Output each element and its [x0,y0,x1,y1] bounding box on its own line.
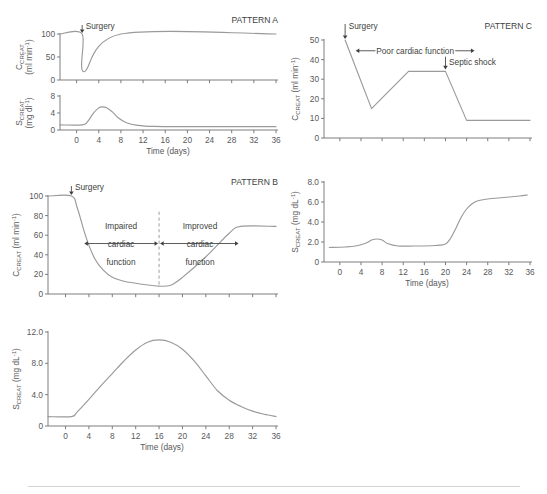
x-tick-label: 24 [201,431,211,441]
y-tick-label: 50 [310,35,320,45]
y-axis: 020406080100 [29,191,48,299]
pattern-b-screat-panel: 04.08.012.004812162024283236Time (days)S… [8,318,284,458]
data-curve [60,31,276,72]
y-tick-label: 2.0 [307,237,319,247]
svg-text:CCREAT (ml min-1): CCREAT (ml min-1) [290,57,301,121]
data-curve [329,195,527,248]
x-axis [324,138,532,141]
y-tick-label: 10 [310,113,320,123]
pattern-b-annotations: SurgeryImpairedcardiacfunctionImprovedca… [69,182,239,286]
y-axis: 04.08.012.0 [27,327,48,431]
x-tick-label: 8 [110,431,115,441]
x-axis-title: Time (days) [140,442,184,452]
improved-label-line3: function [185,257,214,267]
y-tick-label: 8 [50,91,55,101]
x-axis-title: Time (days) [146,146,190,156]
x-tick-label: 4 [87,431,92,441]
x-tick-label: 24 [205,135,215,145]
x-axis [60,80,278,83]
x-tick-label: 16 [161,135,171,145]
y-axis: 048 [50,91,60,135]
y-tick-label: 0 [50,125,55,135]
pattern-title: PATTERN B [231,177,278,187]
y-axis-title: SCREAT(mg dl-1) [14,97,34,128]
x-tick-label: 4 [359,267,364,277]
y-tick-label: 12.0 [27,327,44,337]
data-curve [48,195,276,286]
x-tick-label: 28 [483,267,493,277]
x-tick-label: 32 [504,267,514,277]
y-axis-title: SCREAT (mg dL-1) [290,191,301,253]
y-tick-label: 60 [34,230,44,240]
impaired-label-line1: Impaired [105,221,138,231]
x-tick-label: 8 [119,135,124,145]
x-tick-label: 12 [399,267,409,277]
x-axis: 04812162024283236Time (days) [60,130,281,156]
pattern-b-ccreat-panel: 020406080100CCREAT (ml min-1)PATTERN BSu… [8,180,284,298]
x-tick-label: 20 [183,135,193,145]
y-tick-label: 8.0 [307,177,319,187]
y-tick-label: 4.0 [31,390,43,400]
x-axis: 04812162024283236Time (days) [324,262,535,288]
y-axis-title: CCREAT (ml min-1) [11,213,22,277]
poor-cardiac-label: Poor cardiac function [376,46,454,56]
x-tick-label: 20 [441,267,451,277]
x-tick-label: 12 [131,431,141,441]
y-tick-label: 100 [29,191,43,201]
x-tick-label: 0 [63,431,68,441]
x-tick-label: 36 [271,135,281,145]
y-tick-label: 0 [38,421,43,431]
y-axis-title: CCREAT(ml min-1) [14,39,34,75]
y-axis: 02.04.06.08.0 [307,177,324,267]
pattern-a-screat-panel: 04804812162024283236Time (days)SCREAT(mg… [14,88,284,156]
x-tick-label: 4 [96,135,101,145]
y-tick-label: 0 [38,289,43,299]
y-axis-title: SCREAT (mg dL-1) [11,348,22,410]
x-tick-label: 0 [338,267,343,277]
x-tick-label: 28 [225,431,235,441]
y-axis: 050100 [41,29,60,85]
y-tick-label: 30 [310,74,320,84]
pattern-c-annotations: SurgeryPoor cardiac functionSeptic shock [343,21,497,69]
x-tick-label: 32 [248,431,258,441]
pattern-b-ccreat-chart: 020406080100CCREAT (ml min-1)PATTERN BSu… [8,180,284,298]
x-tick-label: 24 [462,267,472,277]
y-tick-label: 4 [50,108,55,118]
pattern-b-screat-chart: 04.08.012.004812162024283236Time (days)S… [8,318,284,458]
arrow-head [443,66,448,70]
impaired-label-line3: function [107,257,136,267]
x-tick-label: 36 [525,267,535,277]
pattern-c-screat-panel: 02.04.06.08.004812162024283236Time (days… [288,168,540,296]
data-curve [60,107,276,127]
pattern-c-ccreat-panel: 01020304050CCREAT (ml min-1)PATTERN CSur… [288,18,540,144]
y-tick-label: 20 [34,269,44,279]
pattern-c-screat-chart: 02.04.06.08.004812162024283236Time (days… [288,168,540,296]
surgery-label: Surgery [75,182,105,192]
y-tick-label: 0 [314,257,319,267]
x-tick-label: 36 [271,431,281,441]
arrow-head [343,35,348,39]
y-tick-label: 50 [46,52,56,62]
y-tick-label: 4.0 [307,217,319,227]
y-tick-label: 6.0 [307,197,319,207]
x-axis: 04812162024283236Time (days) [48,426,281,452]
y-tick-label: 0 [314,133,319,143]
improved-label-line2: cardiac [187,239,214,249]
impaired-label-line2: cardiac [108,239,135,249]
x-tick-label: 16 [420,267,430,277]
x-axis [48,294,278,297]
data-curve [48,340,276,417]
y-tick-label: 20 [310,94,320,104]
arrow-head [69,191,74,195]
x-tick-label: 12 [138,135,148,145]
footer-divider [28,486,520,487]
pattern-a-ccreat-chart: 050100CCREAT(ml min-1)PATTERN ASurgery [14,22,284,84]
pattern-title: PATTERN A [232,15,279,25]
svg-text:SCREAT (mg dL-1): SCREAT (mg dL-1) [11,348,22,410]
y-tick-label: 40 [310,55,320,65]
svg-text:(mg dl-1): (mg dl-1) [24,97,34,128]
surgery-label: Surgery [86,21,116,31]
septic-shock-label: Septic shock [449,57,497,67]
y-axis: 01020304050 [310,35,324,143]
pattern-c-ccreat-chart: 01020304050CCREAT (ml min-1)PATTERN CSur… [288,18,540,144]
